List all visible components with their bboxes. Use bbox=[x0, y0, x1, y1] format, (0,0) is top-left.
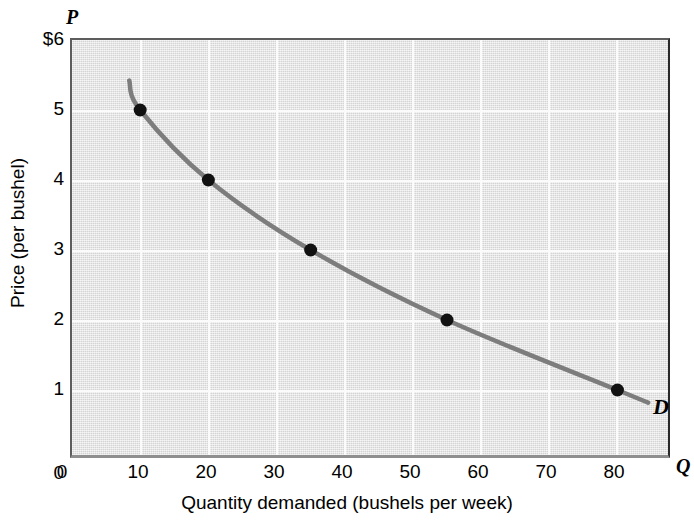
demand-curve-path bbox=[129, 81, 648, 403]
data-point-3 bbox=[441, 314, 454, 327]
y-axis-label: Price (per bushel) bbox=[7, 133, 29, 333]
y-tick-6: $6 bbox=[8, 29, 64, 48]
x-axis-label: Quantity demanded (bushels per week) bbox=[0, 492, 694, 514]
demand-curve-figure: P Q $6 5 4 3 2 1 0 Price (per bushel) D … bbox=[0, 0, 694, 521]
demand-data-points bbox=[134, 104, 624, 397]
x-tick-80: 80 bbox=[584, 462, 644, 481]
x-axis-symbol: Q bbox=[676, 455, 690, 478]
x-tick-40: 40 bbox=[312, 462, 372, 481]
y-tick-5: 5 bbox=[8, 99, 64, 118]
data-point-2 bbox=[304, 244, 317, 257]
x-tick-20: 20 bbox=[176, 462, 236, 481]
y-axis-symbol: P bbox=[66, 6, 78, 29]
curve-label-d: D bbox=[653, 394, 669, 420]
x-tick-50: 50 bbox=[380, 462, 440, 481]
data-point-0 bbox=[134, 104, 147, 117]
data-point-4 bbox=[611, 384, 624, 397]
x-tick-60: 60 bbox=[448, 462, 508, 481]
x-tick-70: 70 bbox=[516, 462, 576, 481]
y-tick-1: 1 bbox=[8, 379, 64, 398]
plot-area bbox=[70, 38, 670, 458]
x-tick-10: 10 bbox=[108, 462, 168, 481]
x-tick-30: 30 bbox=[244, 462, 304, 481]
data-point-1 bbox=[202, 174, 215, 187]
demand-curve-svg bbox=[72, 40, 670, 458]
x-tick-0: 0 bbox=[32, 462, 92, 481]
